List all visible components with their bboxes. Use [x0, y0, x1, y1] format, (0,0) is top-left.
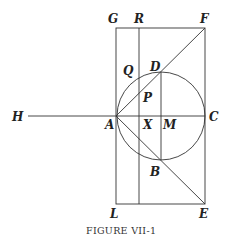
label-p: P [142, 91, 153, 105]
label-l: L [109, 207, 118, 221]
line-ae [116, 116, 205, 204]
label-h: H [11, 110, 24, 124]
label-d: D [149, 60, 161, 74]
label-q: Q [123, 64, 134, 78]
label-e: E [198, 207, 209, 221]
figure-caption: FIGURE VII-1 [86, 225, 156, 236]
label-f: F [199, 12, 210, 26]
label-b: B [149, 165, 160, 179]
geometric-figure: G R F Q D P H A X M C B L E FIGURE VII-1 [0, 0, 231, 237]
label-x: X [142, 118, 153, 132]
label-r: R [133, 12, 144, 26]
label-g: G [108, 12, 118, 26]
label-m: M [162, 118, 177, 132]
label-c: C [209, 110, 219, 124]
label-a: A [104, 118, 114, 132]
